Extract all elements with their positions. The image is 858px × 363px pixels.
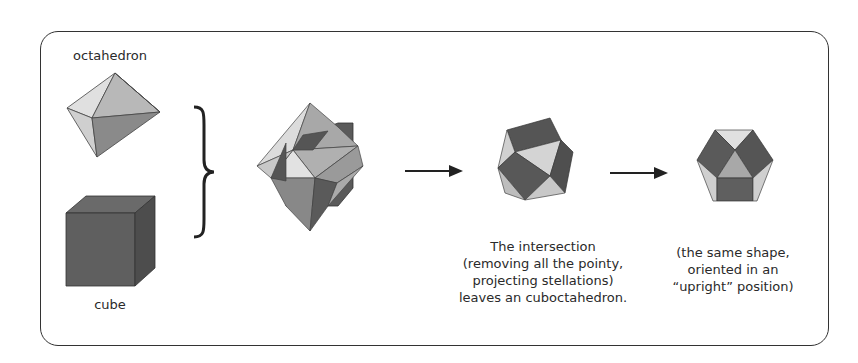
upright-caption: (the same shape, oriented in an “upright… [668, 244, 798, 295]
arrow-right-icon [405, 164, 465, 178]
octahedron-icon [60, 70, 160, 160]
curly-brace-icon [190, 105, 220, 240]
cube-icon [66, 196, 166, 291]
cube-label: cube [80, 296, 140, 313]
arrow-right-icon [610, 166, 670, 180]
octahedron-label: octahedron [70, 47, 150, 64]
cuboctahedron-icon [495, 118, 585, 213]
caption-line: leaves an cuboctahedron. [458, 289, 628, 306]
cuboctahedron-upright-icon [695, 128, 775, 203]
caption-line: (removing all the pointy, [458, 255, 628, 272]
caption-line: The intersection [458, 238, 628, 255]
caption-line: projecting stellations) [458, 272, 628, 289]
caption-line: oriented in an [668, 261, 798, 278]
caption-line: (the same shape, [668, 244, 798, 261]
intersection-caption: The intersection (removing all the point… [458, 238, 628, 306]
caption-line: “upright” position) [668, 278, 798, 295]
compound-of-cube-and-octahedron-icon [253, 103, 383, 233]
